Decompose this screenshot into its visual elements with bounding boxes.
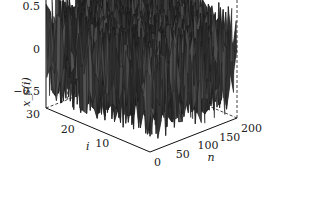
x-tick-label: 150: [219, 131, 240, 144]
x-axis-label: n: [208, 151, 215, 164]
surface: [46, 0, 237, 138]
z-axis-label: x_s(i): [20, 77, 33, 106]
y-tick-label: 20: [61, 123, 75, 136]
x-tick-label: 50: [176, 148, 190, 161]
y-axis-label: i: [86, 140, 90, 153]
surface-plot: 050100150200102030−0.500.5 x_s(i) n i: [0, 0, 309, 203]
x-tick-label: 200: [241, 122, 262, 135]
x-tick-label: 0: [154, 156, 161, 169]
y-tick-label: 30: [26, 108, 40, 121]
y-tick-label: 10: [95, 137, 109, 150]
z-tick-label: 0.5: [23, 0, 41, 13]
z-tick-label: 0: [33, 43, 40, 56]
